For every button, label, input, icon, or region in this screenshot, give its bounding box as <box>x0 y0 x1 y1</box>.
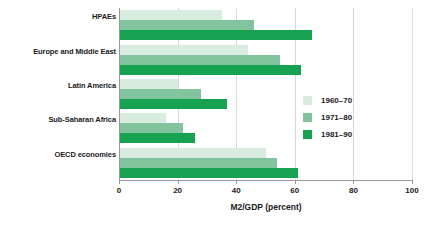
x-axis-line <box>119 180 413 181</box>
legend: 1960–701971–801981–90 <box>303 94 352 145</box>
bar <box>119 158 277 168</box>
x-tick-label: 60 <box>290 186 299 195</box>
category-label: Sub-Saharan Africa <box>3 115 116 124</box>
bar <box>119 55 280 65</box>
legend-item: 1981–90 <box>303 128 352 141</box>
x-tick-mark <box>353 180 354 184</box>
category-label: Europe and Middle East <box>3 47 116 56</box>
bar <box>119 113 166 123</box>
x-tick-label: 80 <box>349 186 358 195</box>
category-axis: HPAEsEurope and Middle EastLatin America… <box>0 0 116 172</box>
bar <box>119 65 301 75</box>
legend-swatch <box>303 130 312 139</box>
x-tick-mark <box>295 180 296 184</box>
bar <box>119 45 248 55</box>
bar-group <box>119 42 412 76</box>
bar <box>119 79 178 89</box>
x-tick-mark <box>119 180 120 184</box>
category-label: HPAEs <box>3 12 116 21</box>
legend-item: 1960–70 <box>303 94 352 107</box>
bar <box>119 89 201 99</box>
bar <box>119 99 227 109</box>
x-tick-mark <box>178 180 179 184</box>
x-tick-label: 40 <box>232 186 241 195</box>
x-tick-label: 20 <box>173 186 182 195</box>
category-label: Latin America <box>3 81 116 90</box>
bar <box>119 133 195 143</box>
x-tick-label: 100 <box>405 186 418 195</box>
bar <box>119 30 312 40</box>
legend-swatch <box>303 96 312 105</box>
bar <box>119 10 222 20</box>
x-tick-label: 0 <box>117 186 121 195</box>
y-axis-spine <box>119 8 120 181</box>
bar-group <box>119 111 412 145</box>
x-tick-mark <box>236 180 237 184</box>
legend-label: 1971–80 <box>321 113 352 122</box>
x-axis-title: M2/GDP (percent) <box>119 202 413 212</box>
category-label: OECD economies <box>3 150 116 159</box>
plot-area <box>119 8 412 180</box>
bar-chart: HPAEsEurope and Middle EastLatin America… <box>0 0 432 230</box>
legend-label: 1981–90 <box>321 130 352 139</box>
legend-label: 1960–70 <box>321 96 352 105</box>
legend-swatch <box>303 113 312 122</box>
bar <box>119 168 298 178</box>
legend-item: 1971–80 <box>303 111 352 124</box>
bar <box>119 123 183 133</box>
bar-group <box>119 8 412 42</box>
bar <box>119 20 254 30</box>
bar-group <box>119 146 412 180</box>
bar <box>119 148 266 158</box>
gridline <box>412 8 413 180</box>
bar-group <box>119 77 412 111</box>
x-tick-mark <box>412 180 413 184</box>
